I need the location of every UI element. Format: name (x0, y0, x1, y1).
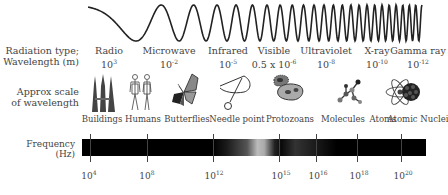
scale-label-needle: Needle point (209, 114, 265, 124)
radiation-type-text: Radiation type; (3, 45, 79, 56)
scale-text-2: of wavelength (11, 97, 79, 108)
scale-label: Approx scale of wavelength (11, 86, 79, 108)
wavelength-base: 10 (219, 59, 231, 70)
wavelength-base: 0.5 x 10 (252, 59, 291, 70)
sine-wave-icon (88, 2, 424, 44)
wavelength-exp: -6 (290, 58, 296, 65)
frequency-text: Frequency (26, 139, 75, 149)
wavelength-base: 10 (101, 59, 113, 70)
freq-base: 10 (271, 171, 282, 181)
freq-base: 10 (349, 171, 360, 181)
radiation-xray: X-ray 10-10 (364, 45, 389, 70)
tick (316, 134, 317, 162)
freq-base: 10 (81, 171, 92, 181)
tick (279, 134, 280, 162)
radiation-microwave: Microwave 10-2 (142, 45, 195, 70)
hz-text: (Hz) (26, 149, 75, 159)
freq-label: 1015 (271, 169, 290, 181)
radiation-name: Visible (252, 45, 296, 56)
radiation-gamma: Gamma ray 10-12 (390, 45, 446, 70)
wavelength-exp: -5 (231, 58, 237, 65)
tick (357, 134, 358, 162)
tick (213, 134, 214, 162)
radiation-name: Microwave (142, 45, 195, 56)
scale-label-humans: Humans (125, 114, 161, 124)
protozoa-icon (270, 72, 306, 104)
buildings-icon (90, 72, 116, 112)
wavelength-text: Wavelength (m) (3, 56, 79, 67)
wavelength-base: 10 (317, 59, 329, 70)
tick (90, 134, 91, 162)
humans-icon (128, 72, 154, 112)
radiation-name: Infrared (208, 45, 248, 56)
freq-label: 1020 (393, 169, 412, 181)
wavelength-base: 10 (407, 59, 419, 70)
radiation-infrared: Infrared 10-5 (208, 45, 248, 70)
molecule-icon (334, 78, 364, 108)
frequency-spectrum-bar (82, 139, 426, 156)
wavelength-exp: 3 (113, 58, 117, 65)
wavelength-exp: -2 (172, 58, 178, 65)
freq-exp: 20 (405, 169, 413, 176)
freq-exp: 12 (216, 169, 224, 176)
wavelength-base: 10 (160, 59, 172, 70)
tick (401, 134, 402, 162)
scale-label-nuclei: Atomic Nuclei (388, 114, 448, 124)
needle-icon (216, 72, 256, 112)
freq-base: 10 (308, 171, 319, 181)
freq-exp: 4 (93, 169, 97, 176)
freq-exp: 16 (320, 169, 328, 176)
freq-exp: 15 (283, 169, 291, 176)
freq-base: 10 (139, 171, 150, 181)
freq-label: 104 (81, 169, 96, 181)
freq-label: 1016 (308, 169, 327, 181)
freq-base: 10 (204, 171, 215, 181)
frequency-label: Frequency (Hz) (26, 139, 75, 159)
radiation-name: X-ray (364, 45, 389, 56)
radiation-name: Ultraviolet (300, 45, 352, 56)
radiation-radio: Radio 103 (95, 45, 123, 70)
scale-label-protozoans: Protozoans (266, 114, 314, 124)
scale-text-1: Approx scale (11, 86, 79, 97)
freq-label: 1012 (204, 169, 223, 181)
radiation-visible: Visible 0.5 x 10-6 (252, 45, 296, 70)
freq-label: 1018 (349, 169, 368, 181)
freq-base: 10 (393, 171, 404, 181)
freq-label: 108 (139, 169, 154, 181)
radiation-type-label: Radiation type; Wavelength (m) (3, 45, 79, 67)
nucleus-icon (401, 82, 421, 102)
tick (147, 134, 148, 162)
freq-exp: 8 (151, 169, 155, 176)
scale-label-buildings: Buildings (82, 114, 123, 124)
radiation-ultraviolet: Ultraviolet 10-8 (300, 45, 352, 70)
wavelength-exp: -10 (378, 58, 388, 65)
wavelength-base: 10 (366, 59, 378, 70)
wavelength-exp: -8 (329, 58, 335, 65)
butterfly-icon (170, 72, 200, 110)
scale-label-molecules: Molecules (321, 114, 365, 124)
wavelength-exp: -12 (419, 58, 429, 65)
freq-exp: 18 (361, 169, 369, 176)
radiation-name: Gamma ray (390, 45, 446, 56)
radiation-name: Radio (95, 45, 123, 56)
scale-label-butterflies: Butterflies (164, 114, 209, 124)
